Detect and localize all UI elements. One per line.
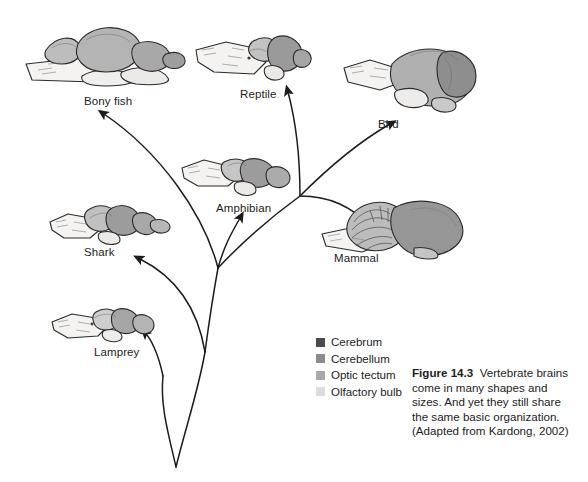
figure-number: Figure 14.3 xyxy=(412,366,473,379)
branch-to-bird xyxy=(300,124,390,196)
branch-trunk-2 xyxy=(176,352,205,467)
legend-item-cerebellum: Cerebellum xyxy=(316,351,412,368)
brain-region-legend: Cerebrum Cerebellum Optic tectum Olfacto… xyxy=(316,334,412,400)
species-label-lamprey: Lamprey xyxy=(94,346,139,358)
brain-illustration-amphibian xyxy=(178,148,296,198)
legend-item-optic-tectum: Optic tectum xyxy=(316,367,412,384)
species-label-shark: Shark xyxy=(84,246,115,258)
species-label-bony-fish: Bony fish xyxy=(84,95,132,107)
branch-mid xyxy=(205,268,218,352)
species-label-reptile: Reptile xyxy=(240,88,277,100)
species-label-mammal: Mammal xyxy=(334,252,379,264)
branch-to-amphibian xyxy=(218,218,240,268)
figure-caption: Figure 14.3 Vertebrate brains come in ma… xyxy=(412,366,578,439)
legend-label-cerebellum: Cerebellum xyxy=(331,353,390,365)
legend-label-optic-tectum: Optic tectum xyxy=(331,369,396,381)
brain-illustration-lamprey xyxy=(48,298,168,346)
legend-label-cerebrum: Cerebrum xyxy=(331,336,382,348)
brain-illustration-reptile xyxy=(192,22,314,86)
legend-swatch-optic-tectum xyxy=(316,371,325,380)
brain-illustration-bird xyxy=(340,38,484,118)
brain-illustration-shark xyxy=(46,196,174,248)
legend-swatch-cerebrum xyxy=(316,338,325,347)
species-label-amphibian: Amphibian xyxy=(216,202,271,214)
legend-item-cerebrum: Cerebrum xyxy=(316,334,412,351)
legend-swatch-cerebellum xyxy=(316,354,325,363)
branch-trunk xyxy=(162,376,176,467)
brain-illustration-bony-fish xyxy=(22,14,190,94)
brain-illustration-mammal xyxy=(318,196,470,260)
legend-label-olfactory-bulb: Olfactory bulb xyxy=(331,386,402,398)
legend-swatch-olfactory-bulb xyxy=(316,387,325,396)
species-label-bird: Bird xyxy=(378,118,399,130)
legend-item-olfactory-bulb: Olfactory bulb xyxy=(316,384,412,401)
figure-vertebrate-brains: Bony fish Reptile xyxy=(0,0,588,482)
